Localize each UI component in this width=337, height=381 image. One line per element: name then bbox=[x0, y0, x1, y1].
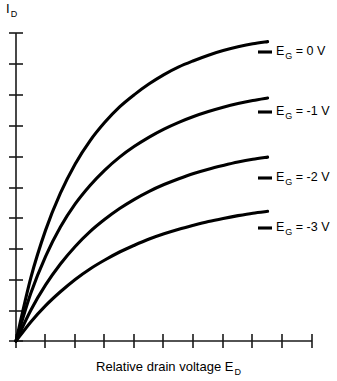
curve-label-eg-minus3v: EG = -3 V bbox=[276, 221, 330, 237]
curves-group bbox=[16, 42, 268, 341]
curve-2 bbox=[16, 157, 268, 341]
curve-label-value: = -1 V bbox=[292, 104, 329, 118]
x-axis-title-main: Relative drain voltage E bbox=[96, 359, 233, 374]
jfet-drain-characteristics-figure: ID EG = 0 V bbox=[0, 0, 337, 381]
curve-1 bbox=[16, 98, 268, 341]
curve-3 bbox=[16, 211, 268, 341]
x-axis-title: Relative drain voltage ED bbox=[0, 360, 337, 377]
curve-label-eg-minus2v: EG = -2 V bbox=[276, 171, 330, 187]
x-axis-title-subscript: D bbox=[233, 367, 241, 377]
curve-label-value: = -2 V bbox=[292, 170, 329, 184]
curve-label-eg-minus1v: EG = -1 V bbox=[276, 105, 330, 121]
curve-label-eg-0v: EG = 0 V bbox=[276, 45, 325, 61]
curve-label-value: = 0 V bbox=[292, 44, 325, 58]
curve-label-value: = -3 V bbox=[292, 220, 329, 234]
